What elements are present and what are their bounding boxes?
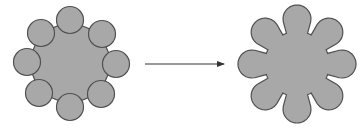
outer-circle xyxy=(89,21,116,48)
circle-ring-figure xyxy=(14,7,130,121)
outer-circle xyxy=(28,20,55,47)
outer-circle xyxy=(88,81,115,108)
outer-circle xyxy=(14,49,41,76)
merged-scalloped-shape xyxy=(238,5,356,123)
outer-circle xyxy=(103,51,130,78)
outer-circle xyxy=(57,94,84,121)
transformation-diagram xyxy=(0,0,364,131)
outer-circle xyxy=(26,80,53,107)
outer-circle xyxy=(57,7,84,34)
